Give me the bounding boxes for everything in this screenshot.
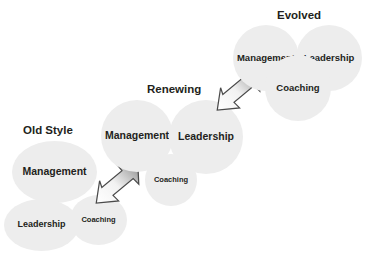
bubble-old-style-leadership: Leadership xyxy=(4,199,79,251)
stage-title-renewing: Renewing xyxy=(147,83,201,95)
bubble-label: Leadership xyxy=(17,220,65,229)
bubble-renewing-coaching: Coaching xyxy=(145,154,197,206)
bubble-label: Coaching xyxy=(276,83,319,93)
stage-title-old-style: Old Style xyxy=(23,124,73,136)
bubble-label: Management xyxy=(22,166,86,177)
bubble-evolved-coaching: Coaching xyxy=(265,55,331,121)
bubble-label: Leadership xyxy=(178,131,234,142)
bubble-label: Coaching xyxy=(154,176,188,184)
stage-title-evolved: Evolved xyxy=(277,9,321,21)
bubble-label: Coaching xyxy=(81,216,115,224)
bubble-old-style-management: Management xyxy=(12,141,97,203)
bubble-label: Management xyxy=(105,130,169,141)
evolution-diagram: Old Style Management Leadership Coaching… xyxy=(0,0,374,254)
